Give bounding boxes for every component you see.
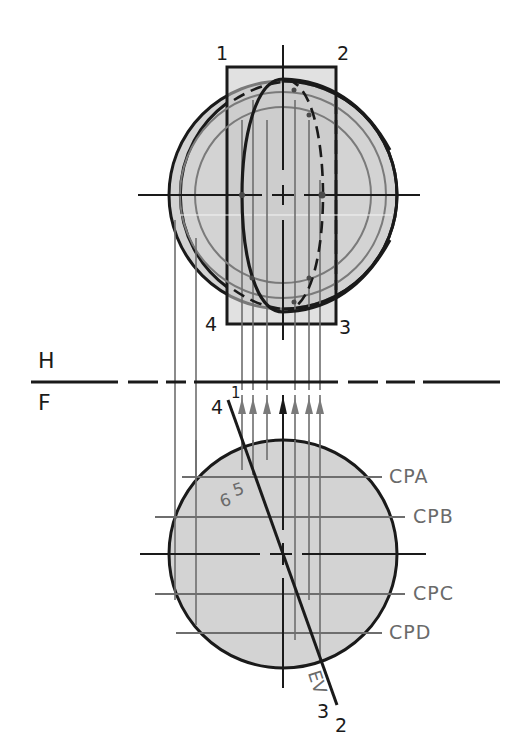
edge-label-3: 3 (317, 702, 329, 721)
front-view (140, 395, 426, 705)
edge-label-4: 4 (211, 398, 223, 417)
edge-label-2: 2 (335, 716, 347, 735)
fold-label-h: H (38, 350, 55, 372)
corner-label-3: 3 (339, 318, 351, 337)
corner-label-1: 1 (216, 44, 228, 63)
edge-label-1: 1 (231, 386, 241, 401)
label-cpd: CPD (389, 623, 431, 642)
technical-drawing (0, 0, 521, 752)
label-cpc: CPC (413, 584, 454, 603)
label-cpa: CPA (389, 467, 429, 486)
label-cpb: CPB (413, 507, 454, 526)
projector-arrows (238, 396, 324, 414)
fold-label-f: F (38, 392, 51, 414)
corner-label-2: 2 (337, 44, 349, 63)
corner-label-4: 4 (205, 315, 217, 334)
